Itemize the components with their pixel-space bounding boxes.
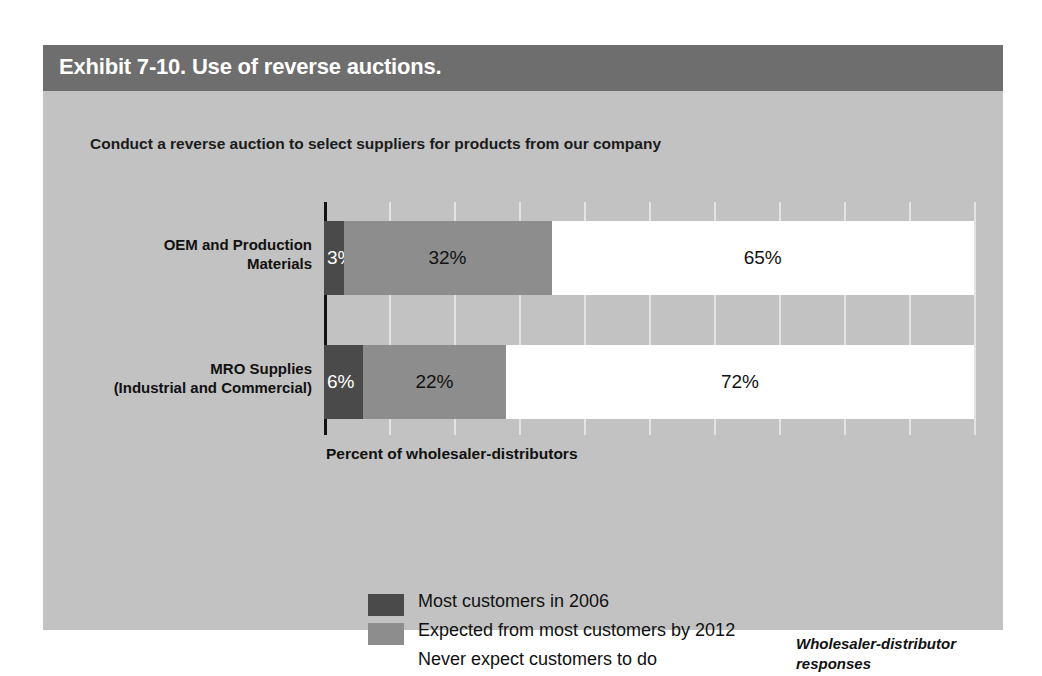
bar-segment: 3% [324,221,344,295]
bar-segment: 22% [363,345,506,419]
x-axis-title: Percent of wholesaler-distributors [326,445,578,463]
category-label: OEM and ProductionMaterials [62,236,312,274]
gridline-100 [974,202,976,435]
legend-label: Most customers in 2006 [418,591,609,612]
bar-segment: 32% [344,221,552,295]
chart-subtitle: Conduct a reverse auction to select supp… [90,135,661,153]
exhibit-title: Exhibit 7-10. Use of reverse auctions. [59,54,441,80]
legend-label: Never expect customers to do [418,649,657,670]
category-label: MRO Supplies(Industrial and Commercial) [62,360,312,398]
source-note: Wholesaler-distributor responses [796,634,996,673]
category-label-line: MRO Supplies [62,360,312,379]
category-label-line: Materials [62,255,312,274]
bar-segment: 72% [506,345,974,419]
category-label-line: OEM and Production [62,236,312,255]
bar-segment: 65% [552,221,975,295]
legend-swatch [368,623,404,645]
bar-segment: 6% [324,345,363,419]
plot-area: 3%32%65%OEM and ProductionMaterials6%22%… [324,202,974,522]
legend-swatch [368,652,404,674]
legend-label: Expected from most customers by 2012 [418,620,735,641]
chart-panel: Conduct a reverse auction to select supp… [43,91,1003,630]
legend-swatch [368,594,404,616]
title-band: Exhibit 7-10. Use of reverse auctions. [43,45,1003,91]
category-label-line: (Industrial and Commercial) [62,379,312,398]
